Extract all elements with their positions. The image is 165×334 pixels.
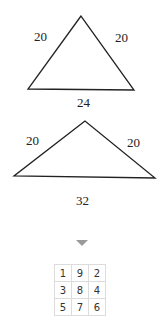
triangle-2-right-side-label: 20 xyxy=(127,136,140,149)
triangle-2-left-side-label: 20 xyxy=(26,134,39,147)
number-grid: 1 9 2 3 8 4 5 7 6 xyxy=(54,264,106,316)
grid-cell: 4 xyxy=(89,282,106,299)
grid-cell: 3 xyxy=(55,282,72,299)
grid-cell: 9 xyxy=(72,265,89,282)
grid-cell: 5 xyxy=(55,299,72,316)
down-triangle-arrow-icon xyxy=(76,240,88,246)
grid-row: 5 7 6 xyxy=(55,299,106,316)
triangle-1-right-side-label: 20 xyxy=(115,31,128,44)
triangle-1-base-label: 24 xyxy=(77,96,90,109)
grid-cell: 7 xyxy=(72,299,89,316)
grid-cell: 6 xyxy=(89,299,106,316)
grid-cell: 1 xyxy=(55,265,72,282)
grid-cell: 8 xyxy=(72,282,89,299)
triangle-1 xyxy=(28,16,134,90)
triangle-1-left-side-label: 20 xyxy=(34,30,47,43)
grid-row: 3 8 4 xyxy=(55,282,106,299)
triangle-2-base-label: 32 xyxy=(76,194,89,207)
grid-row: 1 9 2 xyxy=(55,265,106,282)
grid-cell: 2 xyxy=(89,265,106,282)
